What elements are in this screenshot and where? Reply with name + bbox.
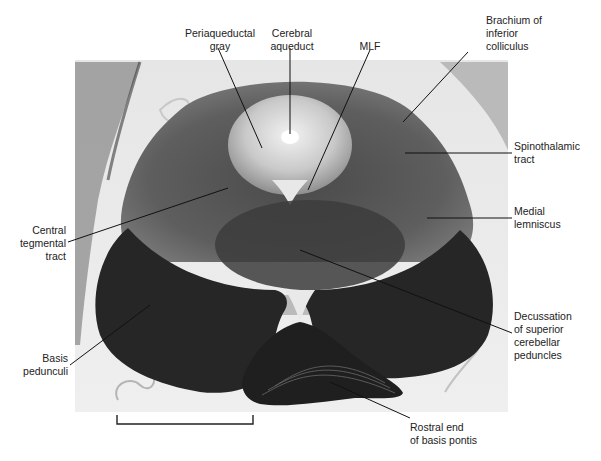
- label-spinothalamic: Spinothalamic tract: [514, 140, 580, 166]
- label-mlf: MLF: [355, 40, 385, 53]
- scale-bar: [117, 415, 253, 424]
- label-medial-lemniscus: Medial lemniscus: [514, 205, 561, 231]
- label-decussation: Decussation of superior cerebellar pedun…: [514, 310, 572, 362]
- label-brachium: Brachium of inferior colliculus: [486, 14, 542, 53]
- label-periaqueductal-gray: Periaqueductal gray: [178, 27, 262, 53]
- decussation-region: [215, 200, 405, 290]
- label-central-tegmental: Central tegmental tract: [0, 224, 66, 263]
- label-rostral-pontis: Rostral end of basis pontis: [410, 421, 477, 447]
- label-cerebral-aqueduct: Cerebral aqueduct: [263, 27, 321, 53]
- label-basis-pedunculi: Basis pedunculi: [0, 352, 68, 378]
- brainstem-section-figure: [0, 0, 601, 461]
